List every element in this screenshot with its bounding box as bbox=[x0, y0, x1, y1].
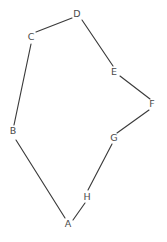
graph-edge-c-d bbox=[36, 18, 72, 32]
graph-node-label-c: C bbox=[28, 32, 35, 42]
graph-node-label-d: D bbox=[73, 9, 80, 19]
edges-group bbox=[14, 18, 150, 220]
graph-edge-h-a bbox=[73, 203, 85, 220]
graph-node-label-h: H bbox=[83, 192, 90, 202]
graph-node-label-a: A bbox=[65, 219, 72, 229]
graph-node-label-f: F bbox=[149, 99, 154, 109]
graph-edge-a-b bbox=[16, 140, 65, 218]
graph-node-label-b: B bbox=[10, 126, 17, 136]
graph-edge-f-g bbox=[117, 110, 149, 133]
graph-edges-layer bbox=[0, 0, 167, 242]
graph-edge-g-h bbox=[88, 144, 112, 190]
graph-edge-d-e bbox=[82, 20, 113, 66]
graph-edge-b-c bbox=[14, 44, 31, 125]
graph-node-label-e: E bbox=[111, 67, 117, 77]
graph-node-label-g: G bbox=[110, 133, 117, 143]
graph-edge-e-f bbox=[120, 76, 150, 99]
graph-diagram: ABCDEFGH bbox=[0, 0, 167, 242]
